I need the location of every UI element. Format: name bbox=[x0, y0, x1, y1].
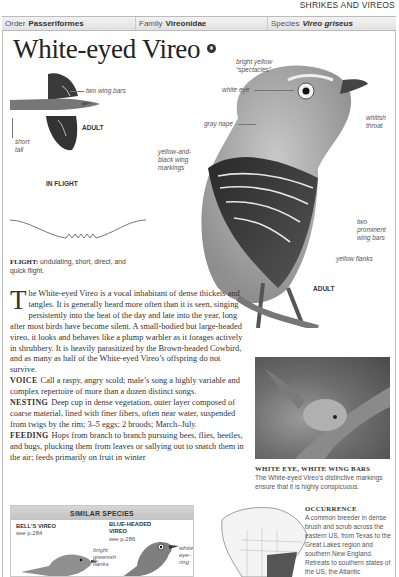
family-label: Family bbox=[139, 19, 163, 28]
label-yellow-flanks: yellow flanks bbox=[336, 255, 373, 263]
range-map bbox=[212, 500, 312, 577]
label-wing-markings: yellow-and-black wingmarkings bbox=[158, 148, 191, 171]
bird-photo bbox=[255, 357, 390, 459]
intro-paragraph: The White-eyed Vireo is a vocal inhabita… bbox=[10, 289, 248, 376]
label-greenish-flanks: brightgreenishflanks bbox=[93, 547, 116, 569]
label-white-eye: white eye bbox=[222, 86, 249, 94]
flight-description: FLIGHT: undulating, short, direct, and q… bbox=[10, 257, 130, 275]
in-flight-caption: IN FLIGHT bbox=[46, 180, 78, 187]
similar-species-box: SIMILAR SPECIES BELL’S VIREO see p.284 B… bbox=[10, 505, 194, 577]
photo-caption-title: WHITE EYE, WHITE WING BARS bbox=[255, 465, 370, 472]
order-value: Passeriformes bbox=[28, 19, 83, 28]
order-label: Order bbox=[5, 19, 25, 28]
species-description: The White-eyed Vireo is a vocal inhabita… bbox=[10, 289, 248, 464]
label-adult-flight: ADULT bbox=[82, 124, 104, 131]
section-heading: SHRIKES AND VIREOS bbox=[300, 0, 395, 10]
sound-icon[interactable] bbox=[207, 44, 216, 53]
leader-line bbox=[12, 118, 13, 138]
voice-paragraph: VOICECall a raspy, angry scold; male’s s… bbox=[10, 376, 248, 398]
label-whitish-throat: whitishthroat bbox=[366, 114, 386, 130]
taxon-order: Order Passeriformes bbox=[2, 17, 136, 30]
main-bird-illustration bbox=[168, 58, 368, 328]
taxonomy-bar: Order Passeriformes Family Vireonidae Sp… bbox=[2, 16, 396, 31]
bells-vireo-illustration bbox=[19, 542, 99, 577]
occurrence-title: OCCURRENCE bbox=[305, 505, 357, 512]
label-gray-nape: gray nape bbox=[204, 120, 233, 128]
similar-species-blue-headed-vireo: BLUE-HEADEDVIREO bbox=[109, 521, 151, 535]
label-prominent-wing-bars: twoprominentwing bars bbox=[357, 218, 386, 241]
blue-headed-vireo-illustration bbox=[121, 536, 181, 577]
nesting-paragraph: NESTINGDeep cup in dense vegetation, out… bbox=[10, 398, 248, 431]
taxon-species: Species Vireo griseus bbox=[268, 17, 396, 30]
label-short-tail: shorttail bbox=[15, 138, 29, 154]
label-white-eye-ring: whiteeye-ring bbox=[179, 545, 193, 567]
similar-species-heading: SIMILAR SPECIES bbox=[11, 506, 193, 520]
family-value: Vireonidae bbox=[166, 19, 207, 28]
occurrence-text: A common breeder in dense brush and scru… bbox=[305, 514, 393, 577]
photo-caption-text: The White-eyed Vireo’s distinctive marki… bbox=[255, 474, 395, 492]
leader-line bbox=[254, 90, 294, 91]
flight-pattern-diagram bbox=[8, 218, 148, 240]
species-value: Vireo griseus bbox=[302, 19, 352, 28]
similar-species-ref[interactable]: see p.284 bbox=[16, 530, 42, 536]
label-adult-main: ADULT bbox=[313, 285, 335, 292]
taxon-family: Family Vireonidae bbox=[136, 17, 268, 30]
field-guide-page: SHRIKES AND VIREOS Order Passeriformes F… bbox=[0, 0, 399, 577]
flight-label: FLIGHT: bbox=[10, 258, 38, 265]
feeding-paragraph: FEEDINGHops from branch to branch pursui… bbox=[10, 431, 248, 464]
leader-line bbox=[238, 124, 256, 125]
drop-cap: T bbox=[10, 290, 27, 311]
label-two-wing-bars: two wing bars bbox=[86, 87, 126, 95]
leader-line bbox=[70, 91, 84, 92]
species-label: Species bbox=[271, 19, 299, 28]
label-spectacles: bright yellow“spectacles” bbox=[236, 58, 272, 74]
